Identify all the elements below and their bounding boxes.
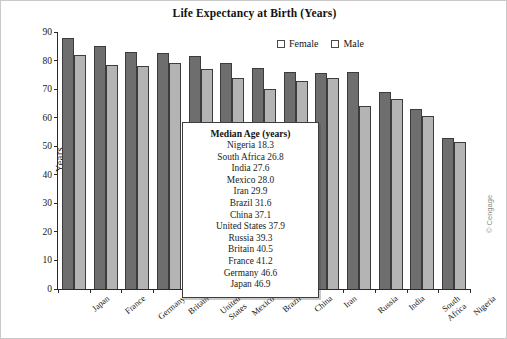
y-axis-tick-label: 80 xyxy=(43,56,53,66)
y-axis-tick: 0 xyxy=(47,284,58,294)
x-axis-tick-mark xyxy=(343,289,344,293)
bar-female xyxy=(379,92,391,289)
y-axis-tick: 70 xyxy=(43,84,59,94)
bar-male xyxy=(106,65,118,289)
bar-group xyxy=(94,46,118,289)
x-axis-tick-mark xyxy=(90,289,91,293)
bar-group xyxy=(410,109,434,289)
x-axis-tick-mark xyxy=(438,289,439,293)
x-axis-tick-mark xyxy=(470,289,471,293)
x-axis-label: France xyxy=(123,294,147,316)
bar-group xyxy=(62,38,86,289)
y-axis-tick: 80 xyxy=(43,56,59,66)
inset-row: Japan 46.9 xyxy=(187,279,314,291)
x-axis-tick-mark xyxy=(58,289,59,293)
bar-male xyxy=(74,55,86,289)
x-axis-tick-mark xyxy=(153,289,154,293)
bar-male xyxy=(359,106,371,289)
y-axis-tick-mark xyxy=(54,89,58,90)
y-axis-tick: 10 xyxy=(43,255,59,265)
y-axis-tick-mark xyxy=(54,32,58,33)
inset-row: South Africa 26.8 xyxy=(187,152,314,164)
bar-male xyxy=(422,116,434,289)
bar-female xyxy=(410,109,422,289)
bar-female xyxy=(157,53,169,289)
inset-row: United States 37.9 xyxy=(187,221,314,233)
y-axis-tick: 60 xyxy=(43,113,59,123)
inset-row: Russia 39.3 xyxy=(187,233,314,245)
y-axis-tick-label: 0 xyxy=(47,284,52,294)
y-axis-tick-label: 90 xyxy=(43,27,53,37)
median-age-inset-box: Median Age (years) Nigeria 18.3South Afr… xyxy=(182,122,319,298)
x-axis-label: Russia xyxy=(376,294,400,316)
x-axis-label: Iran xyxy=(343,294,360,310)
x-axis-label: Japan xyxy=(90,294,111,314)
y-axis-tick-mark xyxy=(54,174,58,175)
bar-female xyxy=(442,138,454,289)
y-axis-tick-mark xyxy=(54,203,58,204)
inset-row: Iran 29.9 xyxy=(187,186,314,198)
y-axis-tick-mark xyxy=(54,231,58,232)
bar-female xyxy=(62,38,74,289)
bar-group xyxy=(157,53,181,289)
inset-row: France 41.2 xyxy=(187,256,314,268)
x-axis-tick-mark xyxy=(375,289,376,293)
y-axis-tick: 30 xyxy=(43,198,59,208)
bar-group xyxy=(347,72,371,289)
bar-female xyxy=(125,52,137,289)
inset-row: Nigeria 18.3 xyxy=(187,140,314,152)
y-axis-tick: 20 xyxy=(43,227,59,237)
bar-male xyxy=(327,78,339,289)
y-axis-tick-mark xyxy=(54,260,58,261)
inset-row: Germany 46.6 xyxy=(187,268,314,280)
bar-male xyxy=(169,63,181,289)
y-axis-tick-label: 50 xyxy=(43,141,53,151)
bar-group xyxy=(379,92,403,289)
x-axis-label: India xyxy=(407,294,427,313)
bar-male xyxy=(454,142,466,289)
inset-row: China 37.1 xyxy=(187,210,314,222)
y-axis-tick: 90 xyxy=(43,27,59,37)
y-axis-tick-label: 30 xyxy=(43,198,53,208)
bar-group xyxy=(442,138,466,289)
y-axis-tick-mark xyxy=(54,117,58,118)
inset-row: India 27.6 xyxy=(187,163,314,175)
y-axis-tick-label: 70 xyxy=(43,84,53,94)
x-axis-label: Nigeria xyxy=(472,294,498,318)
x-axis-tick-mark xyxy=(407,289,408,293)
y-axis-tick-label: 20 xyxy=(43,227,53,237)
bar-male xyxy=(391,99,403,289)
copyright-credit: © Cengage xyxy=(485,195,494,233)
inset-row: Britain 40.5 xyxy=(187,244,314,256)
bar-male xyxy=(137,66,149,289)
bar-female xyxy=(347,72,359,289)
inset-row: Mexico 28.0 xyxy=(187,175,314,187)
x-axis-label: UnitedStates xyxy=(218,294,248,324)
x-axis-tick-mark xyxy=(121,289,122,293)
x-axis-label: Germany xyxy=(157,294,188,322)
inset-title: Median Age (years) xyxy=(187,128,314,139)
bar-group xyxy=(125,52,149,289)
inset-row: Brazil 31.6 xyxy=(187,198,314,210)
chart-title: Life Expectancy at Birth (Years) xyxy=(1,7,507,19)
x-axis-label: SouthAfrica xyxy=(440,294,469,323)
y-axis-tick-mark xyxy=(54,60,58,61)
chart-figure: Life Expectancy at Birth (Years) Female … xyxy=(0,0,507,339)
y-axis-tick-label: 10 xyxy=(43,255,53,265)
y-axis-tick-label: 40 xyxy=(43,170,53,180)
y-axis-tick-label: 60 xyxy=(43,113,53,123)
bar-female xyxy=(94,46,106,289)
inset-row-list: Nigeria 18.3South Africa 26.8India 27.6M… xyxy=(187,140,314,291)
